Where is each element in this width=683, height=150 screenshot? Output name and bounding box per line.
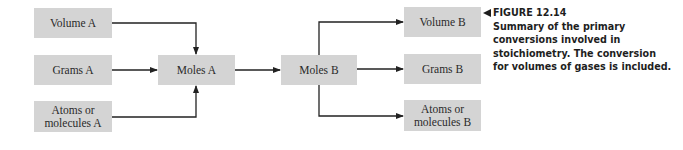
node-label-line1: Atoms or — [421, 103, 464, 116]
node-grams-a: Grams A — [34, 55, 112, 85]
node-label: Moles A — [177, 64, 216, 77]
node-grams-b: Grams B — [404, 54, 481, 84]
node-moles-a: Moles A — [158, 55, 235, 85]
arrow-volume-a-to-moles-a — [112, 23, 196, 54]
pointer-triangle-icon — [483, 9, 491, 17]
node-label-line1: Atoms or — [51, 104, 94, 117]
caption-line: stoichiometry. The conversion — [493, 47, 683, 61]
node-moles-b: Moles B — [281, 55, 357, 85]
node-volume-b: Volume B — [404, 7, 481, 37]
figure-caption: FIGURE 12.14 Summary of the primary conv… — [493, 6, 683, 74]
figure-label: FIGURE 12.14 — [493, 6, 683, 20]
arrow-atoms-a-to-moles-a — [112, 86, 196, 117]
caption-line: conversions involved in — [493, 33, 683, 47]
caption-line: Summary of the primary — [493, 20, 683, 34]
node-volume-a: Volume A — [34, 8, 112, 38]
node-atoms-b: Atoms or molecules B — [404, 100, 481, 131]
caption-line: for volumes of gases is included. — [493, 60, 683, 74]
node-label: Grams A — [52, 64, 93, 77]
arrow-moles-b-to-volume-b — [319, 22, 403, 55]
node-label-line2: molecules B — [414, 116, 471, 129]
node-label: Volume A — [50, 17, 96, 30]
node-label: Moles B — [299, 64, 338, 77]
node-atoms-a: Atoms or molecules A — [34, 101, 112, 132]
node-label: Grams B — [422, 63, 463, 76]
node-label: Volume B — [419, 16, 465, 29]
arrow-moles-b-to-atoms-b — [319, 85, 403, 116]
node-label-line2: molecules A — [44, 117, 101, 130]
